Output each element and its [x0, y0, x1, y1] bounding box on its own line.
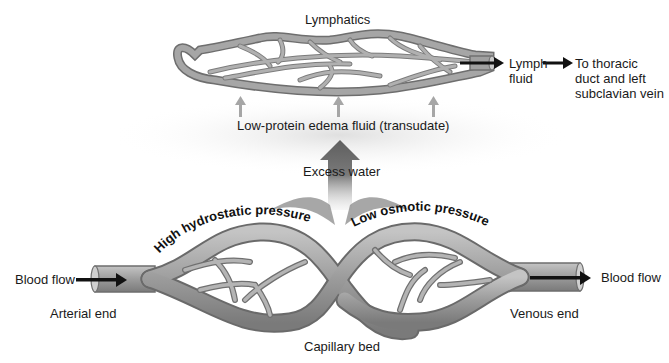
venous-end-label: Venous end — [510, 306, 579, 321]
thoracic-line1: To thoracic — [575, 56, 664, 71]
lymph-fluid-line1: Lymph — [509, 56, 548, 71]
thoracic-line3: subclavian vein — [575, 86, 664, 101]
lymph-fluid-line2: fluid — [509, 71, 548, 86]
capillary-bed-label: Capillary bed — [304, 339, 380, 354]
blood-flow-in-label: Blood flow — [15, 272, 75, 287]
thoracic-duct-label: To thoracic duct and left subclavian vei… — [575, 56, 664, 101]
lymphatic-vessel — [177, 34, 495, 92]
blood-flow-out-label: Blood flow — [601, 270, 661, 285]
lymph-fluid-label: Lymph fluid — [509, 56, 548, 86]
excess-water-label: Excess water — [303, 164, 380, 179]
thoracic-line2: duct and left — [575, 71, 664, 86]
arterial-end-label: Arterial end — [50, 306, 116, 321]
edema-fluid-label: Low-protein edema fluid (transudate) — [237, 118, 449, 133]
lymphatics-label: Lymphatics — [305, 12, 370, 27]
